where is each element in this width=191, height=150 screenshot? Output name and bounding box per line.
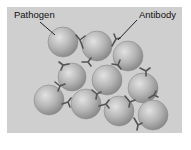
pathogen-sphere xyxy=(48,27,78,57)
antibody-label: Antibody xyxy=(139,10,176,20)
pathogen-sphere xyxy=(34,85,64,115)
pathogen-leader-line xyxy=(40,22,55,35)
pathogen-sphere xyxy=(138,100,168,130)
pathogen-group xyxy=(34,27,168,130)
agglutination-diagram xyxy=(0,0,191,150)
pathogen-label: Pathogen xyxy=(14,10,55,20)
pathogen-sphere xyxy=(92,65,122,95)
antibody-leader-line xyxy=(118,20,137,40)
antibody-icon xyxy=(82,58,91,66)
pathogen-sphere xyxy=(82,31,112,61)
pathogen-sphere xyxy=(113,41,143,71)
pathogen-sphere xyxy=(128,73,158,103)
